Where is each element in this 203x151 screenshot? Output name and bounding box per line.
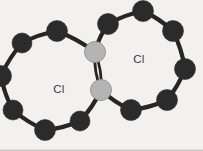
- ring-label-left: Cl: [53, 83, 65, 95]
- atom-dark-R5: [157, 90, 178, 111]
- atom-dark-L4: [3, 100, 23, 120]
- atom-light-J1: [85, 42, 106, 63]
- atom-dark-R2: [133, 1, 154, 22]
- atom-dark-R3: [163, 21, 184, 42]
- atom-dark-R6: [121, 100, 142, 121]
- atom-light-J2: [91, 80, 112, 101]
- molecular-diagram-figure: Cl Cl: [0, 0, 203, 151]
- atom-dark-L1: [47, 21, 68, 42]
- atom-dark-R4: [175, 59, 196, 80]
- ring-label-right: Cl: [133, 53, 145, 65]
- molecule-canvas: Cl Cl: [0, 0, 203, 151]
- atom-dark-L5: [35, 120, 56, 141]
- atom-dark-R1: [98, 14, 119, 35]
- atom-dark-L6: [70, 111, 90, 131]
- atom-dark-L2: [12, 33, 32, 53]
